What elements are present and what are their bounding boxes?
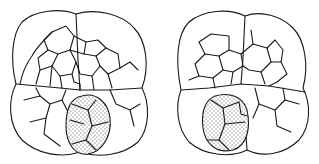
embryo-diagram-right [159,0,319,164]
embryo-diagram-left [0,0,160,164]
